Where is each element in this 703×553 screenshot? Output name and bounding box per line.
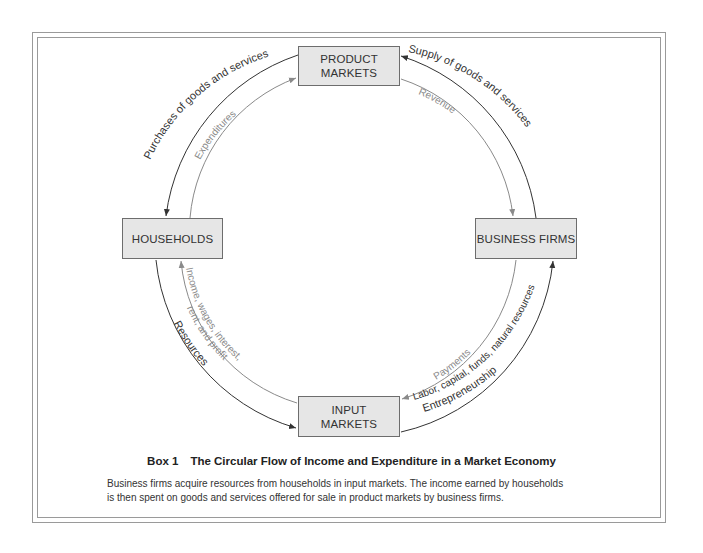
revenue-label: Revenue (417, 86, 458, 116)
caption-body-line1: Business firms acquire resources from ho… (107, 477, 607, 491)
revenue-arrow (401, 79, 513, 216)
product-markets-line1: PRODUCT (320, 53, 378, 65)
caption-body: Business firms acquire resources from ho… (107, 477, 607, 505)
caption-title-text: The Circular Flow of Income and Expendit… (190, 455, 556, 467)
input-markets-node: INPUTMARKETS (298, 396, 400, 437)
box-number: Box 1 (147, 455, 178, 467)
product-markets-node: PRODUCTMARKETS (298, 46, 400, 86)
caption-title: Box 1The Circular Flow of Income and Exp… (0, 455, 703, 467)
supply-label: Supply of goods and services (408, 42, 535, 129)
expenditures-label: Expenditures (192, 108, 238, 161)
business-firms-label: BUSINESS FIRMS (477, 232, 576, 246)
input-markets-line2: MARKETS (321, 418, 377, 430)
input-markets-line1: INPUT (331, 404, 366, 416)
business-firms-node: BUSINESS FIRMS (475, 218, 577, 259)
caption-body-line2: is then spent on goods and services offe… (107, 491, 607, 505)
purchases-arrow (166, 55, 298, 216)
households-label: HOUSEHOLDS (132, 232, 214, 246)
product-markets-line2: MARKETS (321, 67, 377, 79)
households-node: HOUSEHOLDS (122, 218, 223, 259)
supply-arrow (401, 56, 536, 218)
